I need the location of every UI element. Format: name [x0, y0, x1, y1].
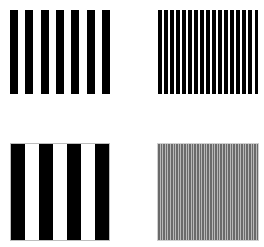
stripe-bar [248, 10, 252, 94]
stripe-bar [87, 10, 95, 94]
stripe-bar [194, 10, 198, 94]
stripe-bar [164, 10, 168, 94]
stripe-bar [224, 10, 228, 94]
stripe-bar [170, 10, 174, 94]
stripe-bar [182, 10, 186, 94]
stripe-bar [71, 10, 79, 94]
stripe-bar [158, 10, 162, 94]
stripe-group [10, 10, 110, 94]
stripe-bar [25, 10, 33, 94]
grating-panel-bottom-right [157, 143, 259, 241]
stripe-bar [39, 144, 53, 240]
stripe-bar [206, 10, 210, 94]
stripe-bar [200, 10, 204, 94]
grating-panel-bottom-left [10, 143, 110, 241]
stripe-bar [212, 10, 216, 94]
stripe-bar [11, 144, 25, 240]
stripe-bar [230, 10, 234, 94]
stripe-bar [102, 10, 110, 94]
stripe-group [158, 10, 258, 94]
grating-panel-top-left [10, 10, 110, 94]
stripe-bar [67, 144, 81, 240]
stripe-bar [218, 10, 222, 94]
stripe-bar [95, 144, 109, 240]
stripe-bar [255, 10, 259, 94]
stripe-bar [176, 10, 180, 94]
stripe-bar [188, 10, 192, 94]
stripe-bar [242, 10, 246, 94]
grating-panel-top-right [158, 10, 258, 94]
stripe-bar [41, 10, 49, 94]
stripe-bar [10, 10, 18, 94]
stripe-group [11, 144, 109, 240]
stripe-bar [56, 10, 64, 94]
stripe-bar [236, 10, 240, 94]
